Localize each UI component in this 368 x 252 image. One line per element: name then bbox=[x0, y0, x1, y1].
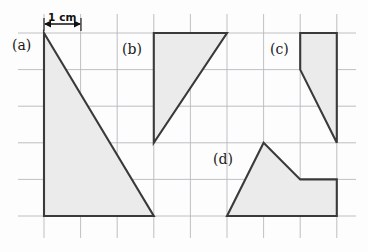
scale-label: 1 cm bbox=[48, 12, 77, 23]
shape-label-c: (c) bbox=[270, 42, 289, 56]
figure-canvas bbox=[0, 0, 368, 252]
geometry-worksheet-figure: 1 cm (a) (b) (c) (d) bbox=[0, 0, 368, 252]
shape-c bbox=[300, 33, 337, 143]
shape-label-d: (d) bbox=[213, 152, 233, 166]
shape-label-b: (b) bbox=[122, 42, 142, 56]
shape-label-a: (a) bbox=[12, 38, 31, 52]
shape-a bbox=[44, 33, 154, 216]
